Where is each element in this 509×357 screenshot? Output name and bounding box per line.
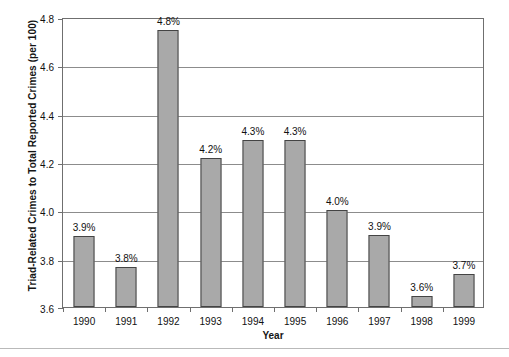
x-tick-label: 1996 <box>326 316 348 327</box>
x-tick-label: 1993 <box>200 316 222 327</box>
x-tick-mark <box>443 307 444 312</box>
x-tick-mark <box>316 307 317 312</box>
x-tick-label: 1992 <box>157 316 179 327</box>
bar-group[interactable]: 3.9%1997 <box>358 19 400 307</box>
x-tick-mark <box>63 307 64 312</box>
bar[interactable] <box>453 274 474 307</box>
x-tick-mark <box>147 307 148 312</box>
bar[interactable] <box>116 267 137 307</box>
bar-value-label: 4.3% <box>284 126 307 137</box>
bar-value-label: 4.2% <box>199 144 222 155</box>
y-tick-label: 4.0 <box>40 207 54 218</box>
bar-value-label: 4.8% <box>157 16 180 27</box>
bar[interactable] <box>74 236 95 307</box>
y-tick-label: 4.6 <box>40 62 54 73</box>
bar-value-label: 3.7% <box>452 260 475 271</box>
x-tick-label: 1999 <box>453 316 475 327</box>
bar-group[interactable]: 3.6%1998 <box>401 19 443 307</box>
bar-group[interactable]: 4.0%1996 <box>316 19 358 307</box>
bar-value-label: 3.8% <box>115 253 138 264</box>
bar-value-label: 3.9% <box>368 221 391 232</box>
x-tick-label: 1990 <box>73 316 95 327</box>
x-tick-label: 1994 <box>242 316 264 327</box>
y-tick-label: 4.8 <box>40 14 54 25</box>
bar[interactable] <box>369 235 390 308</box>
y-tick-label: 4.4 <box>40 110 54 121</box>
x-tick-mark <box>232 307 233 312</box>
bar[interactable] <box>285 140 306 307</box>
bar[interactable] <box>200 158 221 307</box>
y-axis-title: Triad-Related Crimes to Total Reported C… <box>27 6 38 306</box>
bar-value-label: 4.0% <box>326 196 349 207</box>
x-tick-mark <box>190 307 191 312</box>
bar[interactable] <box>411 296 432 307</box>
bar-group[interactable]: 4.2%1993 <box>190 19 232 307</box>
x-axis-title: Year <box>62 330 484 341</box>
x-tick-mark <box>105 307 106 312</box>
bar-group[interactable]: 3.9%1990 <box>63 19 105 307</box>
y-tick-label: 3.6 <box>40 304 54 315</box>
bar-group[interactable]: 4.8%1992 <box>147 19 189 307</box>
x-tick-mark <box>358 307 359 312</box>
x-tick-mark <box>274 307 275 312</box>
x-tick-label: 1997 <box>368 316 390 327</box>
bar-value-label: 3.9% <box>73 222 96 233</box>
y-tick-label: 3.8 <box>40 255 54 266</box>
chart-figure: Triad-Related Crimes to Total Reported C… <box>0 0 509 357</box>
bar-value-label: 4.3% <box>241 126 264 137</box>
bar-group[interactable]: 4.3%1994 <box>232 19 274 307</box>
x-tick-label: 1998 <box>411 316 433 327</box>
y-tick-label: 4.2 <box>40 159 54 170</box>
x-tick-label: 1991 <box>115 316 137 327</box>
x-tick-label: 1995 <box>284 316 306 327</box>
bar-group[interactable]: 4.3%1995 <box>274 19 316 307</box>
bar-group[interactable]: 3.7%1999 <box>443 19 485 307</box>
plot-area: 3.63.84.04.24.44.64.83.9%19903.8%19914.8… <box>62 18 484 308</box>
x-tick-mark <box>401 307 402 312</box>
bar[interactable] <box>242 140 263 307</box>
bar[interactable] <box>158 30 179 307</box>
bar[interactable] <box>327 210 348 307</box>
bar-group[interactable]: 3.8%1991 <box>105 19 147 307</box>
page-divider <box>0 348 509 349</box>
bar-value-label: 3.6% <box>410 282 433 293</box>
